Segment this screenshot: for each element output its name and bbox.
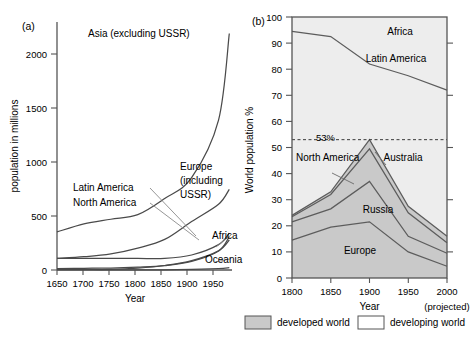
- panel-a-y-axis-label: population in millions: [9, 100, 20, 193]
- panel-a-ytick-0: 0: [42, 265, 47, 276]
- legend-swatch-developing: [358, 316, 384, 329]
- panel-b-ytick-100: 100: [266, 12, 282, 23]
- label-b-north-america-1: North America: [296, 152, 360, 163]
- panel-b-xtick-1850: 1850: [320, 286, 341, 297]
- label-b-russia: Russia: [363, 204, 394, 215]
- panel-a-tag: (a): [22, 20, 35, 32]
- panel-a-xtick-1750: 1750: [98, 278, 119, 289]
- panel-a-xtick-1700: 1700: [72, 278, 93, 289]
- figure-svg: (a) 0 500 1000 1500 2000: [0, 0, 470, 340]
- panel-b-xtick-1800: 1800: [281, 286, 302, 297]
- legend-swatch-developed: [245, 316, 271, 329]
- panel-b: (b) 53%: [244, 12, 470, 312]
- panel-b-projected-note: (projected): [424, 301, 469, 312]
- panel-b-tag: (b): [252, 15, 265, 27]
- label-oceania: Oceania: [205, 254, 243, 265]
- label-b-latin-america: Latin America: [366, 53, 427, 64]
- panel-a-x-ticks: 1650 1700 1750 1800 1850 1900 1950: [46, 270, 223, 289]
- panel-b-xtick-2000: 2000: [436, 286, 457, 297]
- panel-b-xtick-1900: 1900: [359, 286, 380, 297]
- curve-africa: [57, 233, 229, 259]
- panel-a-xtick-1850: 1850: [150, 278, 171, 289]
- panel-b-ytick-30: 30: [271, 194, 282, 205]
- label-latin-america: Latin America: [73, 182, 134, 193]
- panel-b-ytick-20: 20: [271, 220, 282, 231]
- panel-b-ytick-70: 70: [271, 90, 282, 101]
- label-europe-ussr: USSR): [180, 189, 211, 200]
- panel-a-xtick-1900: 1900: [176, 278, 197, 289]
- label-b-australia: Australia: [384, 152, 423, 163]
- panel-b-ytick-50: 50: [271, 142, 282, 153]
- legend-label-developed: developed world: [277, 317, 350, 328]
- panel-a-ytick-1500: 1500: [26, 103, 47, 114]
- panel-b-ytick-40: 40: [271, 168, 282, 179]
- panel-b-ytick-10: 10: [271, 246, 282, 257]
- panel-a-curves: [57, 34, 229, 270]
- label-north-america: North America: [73, 197, 137, 208]
- legend-label-developing: developing world: [390, 317, 465, 328]
- curve-north-america: [57, 240, 229, 270]
- panel-b-ytick-0: 0: [277, 273, 282, 284]
- label-asia: Asia (excluding USSR): [88, 28, 190, 39]
- panel-a-xtick-1650: 1650: [46, 278, 67, 289]
- panel-a-xtick-1950: 1950: [202, 278, 223, 289]
- label-b-africa: Africa: [387, 26, 413, 37]
- panel-b-ytick-90: 90: [271, 38, 282, 49]
- panel-a-x-axis-label: Year: [125, 293, 146, 304]
- panel-a-y-ticks: 0 500 1000 1500 2000: [26, 49, 57, 276]
- panel-b-x-axis-label: Year: [359, 301, 380, 312]
- panel-b-xtick-1950: 1950: [398, 286, 419, 297]
- curve-latin-america: [57, 237, 229, 269]
- panel-a-ytick-1000: 1000: [26, 157, 47, 168]
- figure-legend: developed world developing world: [245, 316, 465, 329]
- annotation-53-percent: 53%: [316, 132, 336, 143]
- panel-a-ytick-500: 500: [31, 211, 47, 222]
- panel-b-ytick-80: 80: [271, 64, 282, 75]
- figure-root: (a) 0 500 1000 1500 2000: [0, 0, 470, 340]
- panel-a-ytick-2000: 2000: [26, 49, 47, 60]
- label-europe: Europe: [180, 161, 213, 172]
- panel-a: (a) 0 500 1000 1500 2000: [9, 20, 243, 304]
- panel-b-ytick-60: 60: [271, 116, 282, 127]
- label-b-europe: Europe: [344, 245, 377, 256]
- panel-b-x-ticks: 1800 1850 1900 1950 2000: [281, 278, 457, 297]
- label-africa: Africa: [212, 230, 238, 241]
- panel-a-xtick-1800: 1800: [124, 278, 145, 289]
- label-europe-including: (including: [180, 175, 223, 186]
- panel-b-y-axis-label: World population %: [244, 107, 255, 194]
